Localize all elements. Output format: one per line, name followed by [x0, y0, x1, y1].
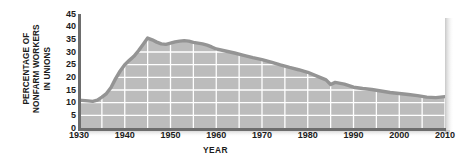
- x-tick-1930: 1930: [69, 130, 89, 140]
- x-tick-1990: 1990: [343, 130, 363, 140]
- x-tick-1970: 1970: [252, 130, 272, 140]
- x-tick-1980: 1980: [298, 130, 318, 140]
- x-tick-1960: 1960: [206, 130, 226, 140]
- x-axis-title-text: YEAR: [203, 145, 228, 155]
- chart-figure: PERCENTAGE OF NONFARM WORKERS IN UNIONS …: [0, 0, 469, 163]
- x-tick-1950: 1950: [160, 130, 180, 140]
- x-tick-2010: 2010: [435, 130, 455, 140]
- x-axis-tick-labels: 193019401950196019701980199020002010: [0, 130, 469, 144]
- x-tick-1940: 1940: [115, 130, 135, 140]
- x-axis-title: YEAR: [0, 145, 469, 155]
- x-tick-2000: 2000: [389, 130, 409, 140]
- panel-shadow-right: [445, 18, 454, 134]
